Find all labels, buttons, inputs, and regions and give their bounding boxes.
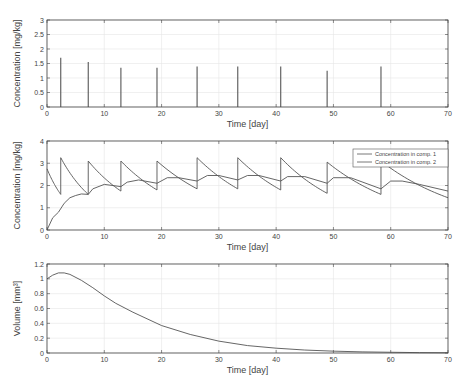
svg-text:60: 60: [387, 110, 395, 117]
series-line: [47, 175, 448, 230]
svg-text:0: 0: [45, 233, 49, 240]
svg-text:20: 20: [158, 110, 166, 117]
grid: [47, 264, 448, 353]
y-axis-label: Concentration [mg/kg]: [12, 19, 22, 107]
svg-text:10: 10: [100, 356, 108, 363]
legend-label-1: Concentration in comp. 1: [375, 151, 436, 157]
svg-text:10: 10: [100, 110, 108, 117]
svg-text:50: 50: [330, 110, 338, 117]
svg-text:1.5: 1.5: [34, 60, 44, 67]
svg-text:2.5: 2.5: [34, 31, 44, 38]
svg-text:0.5: 0.5: [34, 89, 44, 96]
concentration-chart: 01020304050607001234 Time [day] Concentr…: [12, 138, 452, 253]
svg-text:1.2: 1.2: [34, 261, 44, 268]
legend-label-2: Concentration in comp. 2: [375, 159, 436, 165]
x-axis-label: Time [day]: [227, 119, 269, 129]
x-axis-label: Time [day]: [227, 365, 269, 375]
svg-text:70: 70: [444, 356, 452, 363]
svg-text:60: 60: [387, 233, 395, 240]
svg-text:4: 4: [40, 138, 44, 145]
svg-text:20: 20: [158, 233, 166, 240]
svg-text:3: 3: [40, 17, 44, 24]
svg-text:0.2: 0.2: [34, 335, 44, 342]
y-axis-label: Concentration [mg/kg]: [12, 141, 22, 229]
svg-text:0: 0: [45, 110, 49, 117]
svg-text:0: 0: [40, 104, 44, 111]
svg-text:1: 1: [40, 204, 44, 211]
svg-text:3: 3: [40, 160, 44, 167]
svg-text:30: 30: [215, 110, 223, 117]
svg-text:0: 0: [45, 356, 49, 363]
svg-text:2: 2: [40, 182, 44, 189]
ticks: 01020304050607000.20.40.60.811.2: [34, 261, 452, 364]
figure: 01020304050607000.511.522.53 Time [day] …: [0, 0, 465, 388]
svg-text:0: 0: [40, 227, 44, 234]
svg-text:20: 20: [158, 356, 166, 363]
series-line: [47, 273, 448, 353]
svg-text:30: 30: [215, 356, 223, 363]
dose-chart: 01020304050607000.511.522.53 Time [day] …: [12, 17, 452, 130]
svg-text:50: 50: [330, 233, 338, 240]
svg-text:0: 0: [40, 350, 44, 357]
svg-text:1: 1: [40, 75, 44, 82]
svg-text:0.4: 0.4: [34, 320, 44, 327]
grid: [47, 20, 448, 107]
svg-text:10: 10: [100, 233, 108, 240]
svg-text:70: 70: [444, 110, 452, 117]
legend: Concentration in comp. 1 Concentration i…: [353, 149, 448, 167]
plot-area: [47, 273, 448, 353]
svg-text:40: 40: [272, 356, 280, 363]
ticks: 01020304050607000.511.522.53: [34, 17, 452, 118]
svg-text:50: 50: [330, 356, 338, 363]
svg-text:1: 1: [40, 275, 44, 282]
svg-text:40: 40: [272, 110, 280, 117]
svg-text:0.8: 0.8: [34, 290, 44, 297]
svg-text:40: 40: [272, 233, 280, 240]
svg-text:0.6: 0.6: [34, 305, 44, 312]
svg-text:2: 2: [40, 46, 44, 53]
plot-area: [61, 58, 381, 107]
svg-text:70: 70: [444, 233, 452, 240]
x-axis-label: Time [day]: [227, 242, 269, 252]
y-axis-label: Volume [mm³]: [12, 281, 22, 337]
volume-chart: 01020304050607000.20.40.60.811.2 Time [d…: [12, 261, 452, 376]
plot-area: [47, 158, 448, 230]
svg-text:60: 60: [387, 356, 395, 363]
svg-text:30: 30: [215, 233, 223, 240]
